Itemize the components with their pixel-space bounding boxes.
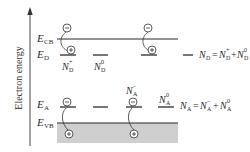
svg-text:0: 0 <box>227 98 230 104</box>
svg-text:A: A <box>227 106 232 112</box>
svg-text:0: 0 <box>166 92 169 98</box>
energy-axis: Electron energy <box>13 7 33 146</box>
svg-text:VB: VB <box>44 122 54 130</box>
svg-text:A: A <box>166 100 171 106</box>
svg-text:E: E <box>36 32 44 44</box>
donor-equation: N D = N D + + N D 0 <box>198 47 249 61</box>
acceptor-equation: N A = N A − + N A 0 <box>179 98 232 112</box>
svg-text:A: A <box>187 106 192 112</box>
label-nd-plus: N D + <box>61 59 74 73</box>
svg-text:D: D <box>244 55 249 61</box>
label-evb: E VB <box>36 116 54 130</box>
svg-text:E: E <box>36 98 44 110</box>
label-ea: E A <box>36 98 49 112</box>
label-na-minus: N A − <box>125 83 138 97</box>
svg-text:D: D <box>101 67 106 73</box>
valence-band-fill <box>57 123 178 143</box>
svg-text:CB: CB <box>44 38 54 46</box>
svg-text:D: D <box>69 67 74 73</box>
svg-text:0: 0 <box>244 47 247 53</box>
svg-text:0: 0 <box>101 59 104 65</box>
label-ed: E D <box>36 48 49 62</box>
svg-text:A: A <box>133 91 138 97</box>
svg-text:+: + <box>213 100 219 111</box>
svg-text:E: E <box>36 48 44 60</box>
arrow-up-icon <box>27 7 32 15</box>
svg-text:+: + <box>226 47 230 53</box>
axis-label: Electron energy <box>13 46 24 109</box>
svg-text:E: E <box>36 116 44 128</box>
band-diagram: Electron energy E CB E D E A E VB <box>0 0 250 152</box>
svg-text:−: − <box>207 98 211 104</box>
label-na-zero: N A 0 <box>158 92 171 106</box>
svg-text:D: D <box>44 54 49 62</box>
label-nd-zero: N D 0 <box>93 59 106 73</box>
svg-text:−: − <box>133 83 137 89</box>
svg-text:D: D <box>206 55 211 61</box>
svg-text:=: = <box>193 100 199 111</box>
svg-text:A: A <box>44 104 49 112</box>
label-ecb: E CB <box>36 32 54 46</box>
svg-text:+: + <box>69 59 73 65</box>
svg-text:=: = <box>212 49 218 60</box>
svg-text:A: A <box>207 106 212 112</box>
